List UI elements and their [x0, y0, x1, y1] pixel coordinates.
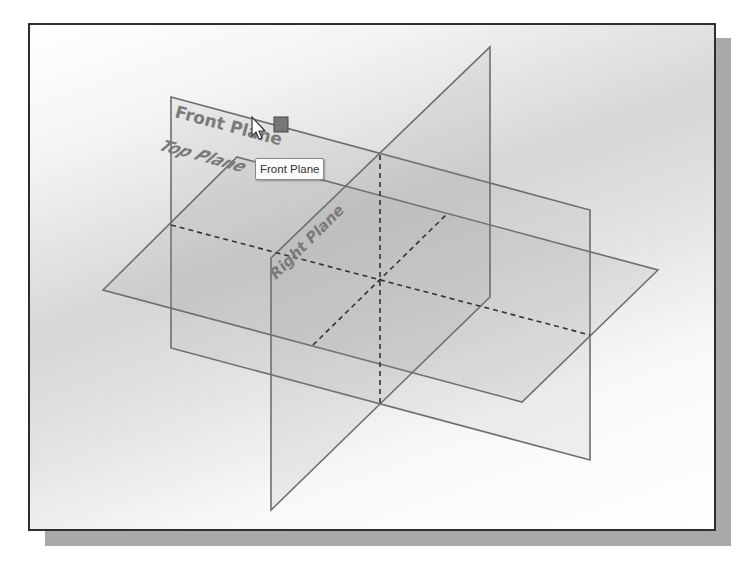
- tooltip: Front Plane: [255, 158, 324, 180]
- plane-select-icon: [274, 117, 288, 132]
- plane-scene: Front Plane Top Plane Right Plane: [30, 25, 714, 529]
- graphics-viewport[interactable]: Front Plane Top Plane Right Plane Front …: [28, 23, 716, 531]
